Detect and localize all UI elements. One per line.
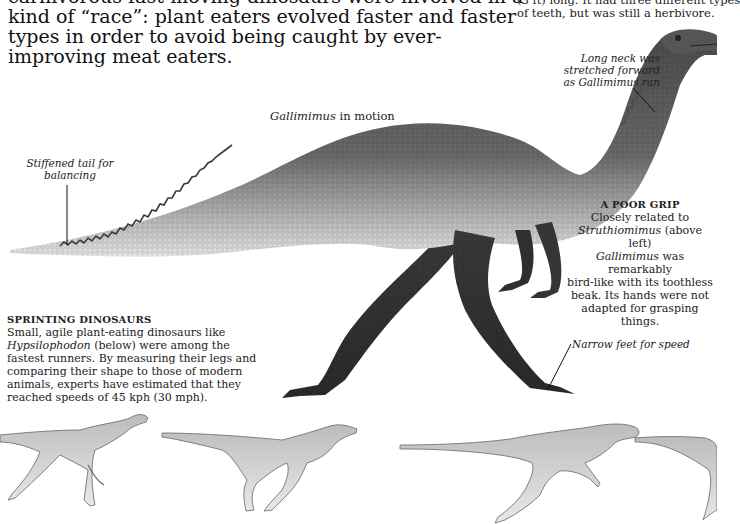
gallimimus-title-rest: in motion bbox=[336, 109, 395, 123]
feet-leader-line bbox=[548, 344, 571, 389]
gallimimus-title-italic: Gallimimus bbox=[270, 109, 336, 123]
poor-grip-line: Gallimimus was remarkably bbox=[565, 250, 715, 276]
poor-grip-heading: A POOR GRIP bbox=[565, 198, 715, 211]
poor-grip-line: Struthiomimus (above left) bbox=[565, 224, 715, 250]
gallimimus-far-leg bbox=[282, 235, 460, 398]
hypsilophodon-figure-3 bbox=[400, 424, 639, 523]
italic-name: Hypsilophodon bbox=[7, 339, 91, 352]
poor-grip-line: bird-like with its toothless bbox=[565, 276, 715, 289]
sprinting-line: reached speeds of 45 kph (30 mph). bbox=[7, 391, 247, 404]
italic-name: Gallimimus bbox=[596, 250, 659, 263]
hypsilophodon-figure-4 bbox=[635, 437, 717, 521]
neck-label-line: stretched forward bbox=[550, 64, 660, 76]
poor-grip-line: Closely related to bbox=[565, 211, 715, 224]
hypsilophodon-figure-1 bbox=[0, 415, 148, 506]
gallimimus-title: Gallimimus in motion bbox=[270, 110, 395, 123]
poor-grip-line: beak. Its hands were not bbox=[565, 289, 715, 302]
tail-label-line: balancing bbox=[10, 169, 130, 181]
hypsilophodon-figure-2 bbox=[162, 425, 357, 511]
poor-grip-line: adapted for grasping things. bbox=[565, 302, 715, 328]
text: (below) were among the bbox=[91, 339, 230, 352]
sprinting-line: comparing their shape to those of modern bbox=[7, 365, 247, 378]
italic-name: Struthiomimus bbox=[578, 224, 661, 237]
sprinting-caption: SPRINTING DINOSAURS Small, agile plant-e… bbox=[7, 313, 247, 404]
sprinting-line: Small, agile plant-eating dinosaurs like bbox=[7, 326, 247, 339]
tail-label: Stiffened tail for balancing bbox=[10, 157, 130, 181]
neck-label-line: as Gallimimus ran bbox=[550, 76, 660, 88]
neck-label: Long neck was stretched forward as Galli… bbox=[550, 52, 660, 88]
sprinting-line: Hypsilophodon (below) were among the bbox=[7, 339, 247, 352]
poor-grip-caption: A POOR GRIP Closely related to Struthiom… bbox=[565, 198, 715, 328]
neck-label-line: Long neck was bbox=[550, 52, 660, 64]
feet-label: Narrow feet for speed bbox=[572, 338, 690, 350]
sprinting-line: fastest runners. By measuring their legs… bbox=[7, 352, 247, 365]
tail-label-line: Stiffened tail for bbox=[10, 157, 130, 169]
sprinting-heading: SPRINTING DINOSAURS bbox=[7, 313, 247, 326]
sprinting-line: animals, experts have estimated that the… bbox=[7, 378, 247, 391]
